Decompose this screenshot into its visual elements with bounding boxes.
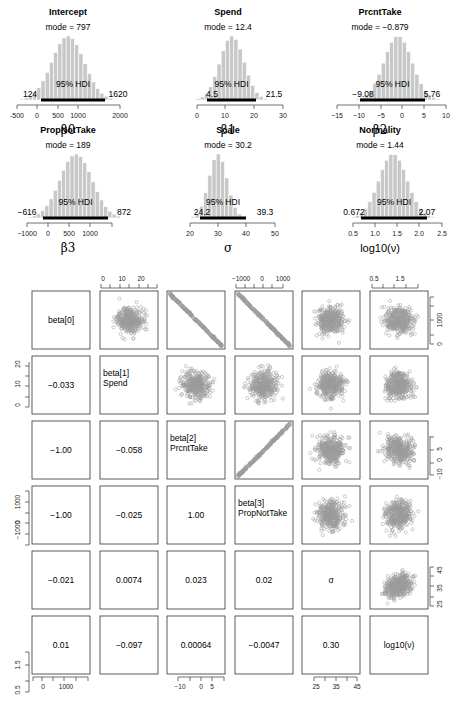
scatter-point bbox=[190, 402, 193, 405]
hdi-label: 95% HDI bbox=[375, 79, 409, 89]
correlation-panel: −0.058 bbox=[100, 421, 158, 479]
axis-tick-label: 5 bbox=[436, 447, 443, 451]
scatter-point bbox=[381, 449, 384, 452]
scatter-point bbox=[311, 434, 314, 437]
scatter-point bbox=[320, 529, 323, 532]
x-tick-label: 0 bbox=[400, 112, 404, 119]
correlation-panel: 0.0074 bbox=[100, 551, 158, 609]
diagonal-panel: beta[2]PrcntTake bbox=[167, 421, 225, 479]
variable-label: σ bbox=[328, 575, 334, 585]
histogram-bar bbox=[41, 81, 45, 100]
axis-tick-label: 1000 bbox=[436, 312, 443, 327]
correlation-value: −0.033 bbox=[48, 380, 75, 390]
correlation-value: −0.0047 bbox=[249, 640, 280, 650]
correlation-panel: −0.097 bbox=[100, 616, 158, 674]
scatter-point bbox=[343, 501, 346, 504]
histogram-bar bbox=[351, 217, 355, 218]
matrix-axis: 253545 bbox=[312, 677, 361, 690]
histogram-bar bbox=[393, 155, 397, 218]
scatter-panel bbox=[370, 356, 428, 414]
axis-tick-label: 20 bbox=[137, 275, 145, 282]
histogram-title: PropNotTake bbox=[40, 125, 95, 135]
mode-label: mode = 30.2 bbox=[204, 140, 252, 150]
scatter-point bbox=[396, 330, 399, 333]
x-tick-label: −1000 bbox=[17, 230, 37, 237]
axis-tick-label: 45 bbox=[353, 683, 361, 690]
scatter-point bbox=[378, 431, 381, 434]
axis-tick-label: 1000 bbox=[59, 683, 74, 690]
axis-tick-label: 0 bbox=[14, 403, 21, 407]
scatter-point bbox=[280, 384, 283, 387]
axis-tick-label: 25 bbox=[436, 600, 443, 608]
histogram-bar bbox=[83, 163, 87, 218]
axis-tick-label: −1000 bbox=[232, 275, 251, 282]
scatter-point bbox=[142, 307, 145, 310]
scatter-panel bbox=[235, 356, 293, 414]
correlation-panel: 0.01 bbox=[32, 616, 90, 674]
histogram-bar bbox=[75, 45, 79, 100]
histogram-bar bbox=[28, 217, 32, 218]
diagonal-panel: log10(ν) bbox=[370, 616, 428, 674]
x-tick-label: 0 bbox=[195, 112, 199, 119]
histogram-title: Normality bbox=[359, 125, 401, 135]
x-tick-label: 20 bbox=[186, 230, 194, 237]
scatter-point bbox=[404, 531, 407, 534]
hdi-high-label: 2.07 bbox=[419, 207, 436, 217]
scatter-panel bbox=[302, 291, 360, 349]
axis-tick-label: −10 bbox=[436, 468, 443, 479]
diagonal-panel: beta[0] bbox=[32, 291, 90, 349]
x-tick-label: 500 bbox=[63, 230, 75, 237]
scatter-point bbox=[348, 319, 351, 322]
correlation-value: −0.097 bbox=[116, 640, 143, 650]
axis-tick-label: 0.5 bbox=[369, 275, 378, 282]
axis-tick-label: 20 bbox=[14, 360, 21, 368]
histogram-bar bbox=[390, 42, 394, 100]
axis-tick-label: 0 bbox=[199, 683, 203, 690]
correlation-value: 0.0074 bbox=[116, 575, 142, 585]
histogram-bar bbox=[216, 154, 220, 218]
histogram-title: Intercept bbox=[49, 7, 87, 17]
scatter-panel bbox=[370, 291, 428, 349]
scatter-point bbox=[243, 382, 246, 385]
scatter-point bbox=[341, 331, 344, 334]
scatter-point bbox=[344, 459, 347, 462]
histogram-bar bbox=[230, 36, 234, 100]
histogram-bar bbox=[74, 154, 78, 218]
scatter-point bbox=[321, 534, 324, 537]
scatter-point bbox=[397, 530, 400, 533]
matrix-axis: 01000 bbox=[430, 297, 443, 346]
histogram-panel: Interceptmode = 79795% HDI1241620-500050… bbox=[10, 7, 128, 137]
x-tick-label: 30 bbox=[214, 230, 222, 237]
histogram-bar bbox=[91, 82, 95, 100]
correlation-value: 0.01 bbox=[53, 640, 70, 650]
variable-label: beta[1] bbox=[103, 368, 129, 378]
scatter-panel bbox=[167, 291, 225, 349]
scatter-point bbox=[213, 377, 216, 380]
scatter-point bbox=[413, 584, 416, 587]
axis-tick-label: 35 bbox=[332, 683, 340, 690]
scatter-point bbox=[393, 399, 396, 402]
correlation-panel: −0.0047 bbox=[235, 616, 293, 674]
histogram-bar bbox=[95, 192, 99, 218]
x-tick-label: 1.5 bbox=[392, 230, 402, 237]
diagonal-panel: beta[3]PropNotTake bbox=[235, 486, 293, 544]
scatter-point bbox=[382, 315, 385, 318]
axis-tick-label: −10 bbox=[174, 683, 185, 690]
histogram-bar bbox=[212, 160, 216, 218]
histogram-bar bbox=[385, 52, 389, 100]
correlation-value: −1.00 bbox=[50, 445, 72, 455]
axis-tick-label: 10 bbox=[118, 275, 126, 282]
histogram-bar bbox=[99, 200, 103, 218]
histogram-panel: PropNotTakemode = 18995% HDI−616872−1000… bbox=[17, 125, 131, 255]
scatter-point bbox=[270, 399, 273, 402]
variable-label: log10(ν) bbox=[384, 640, 415, 650]
variable-label: beta[2] bbox=[170, 433, 196, 443]
matrix-axis: −1005 bbox=[174, 677, 224, 690]
histogram-bar bbox=[402, 42, 406, 100]
x-tick-label: 30 bbox=[279, 112, 287, 119]
histogram-bar bbox=[70, 156, 74, 218]
histogram-title: Spend bbox=[214, 7, 242, 17]
correlation-panel: −1.00 bbox=[32, 421, 90, 479]
correlation-value: 0.30 bbox=[323, 640, 340, 650]
axis-tick-label: 1.5 bbox=[14, 660, 21, 669]
